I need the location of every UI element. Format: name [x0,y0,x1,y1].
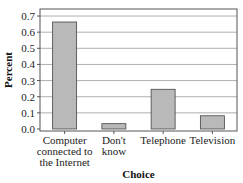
bar [53,22,77,129]
x-tick-label: Don'tknow [102,134,127,157]
x-tick-label: Telephone [140,134,186,146]
y-tick-label: 0.5 [21,42,35,54]
y-axis: 0.00.10.20.30.40.50.60.7 [21,10,40,135]
bar [151,89,175,129]
y-axis-title: Percent [2,52,14,88]
x-tick-label: Computerconnected tothe Internet [37,134,93,168]
bar [200,116,224,129]
x-tick-label: Television [190,134,236,146]
bar-chart: 0.00.10.20.30.40.50.60.7 Computerconnect… [0,0,243,183]
y-tick-label: 0.3 [21,75,35,87]
y-tick-label: 0.0 [21,123,35,135]
y-tick-label: 0.2 [21,91,35,103]
x-axis: Computerconnected tothe InternetDon'tkno… [37,131,236,168]
x-axis-title: Choice [122,168,155,180]
y-tick-label: 0.4 [21,58,35,70]
bar [102,124,126,129]
y-tick-label: 0.7 [21,10,35,22]
y-tick-label: 0.6 [21,26,35,38]
y-tick-label: 0.1 [21,107,35,119]
